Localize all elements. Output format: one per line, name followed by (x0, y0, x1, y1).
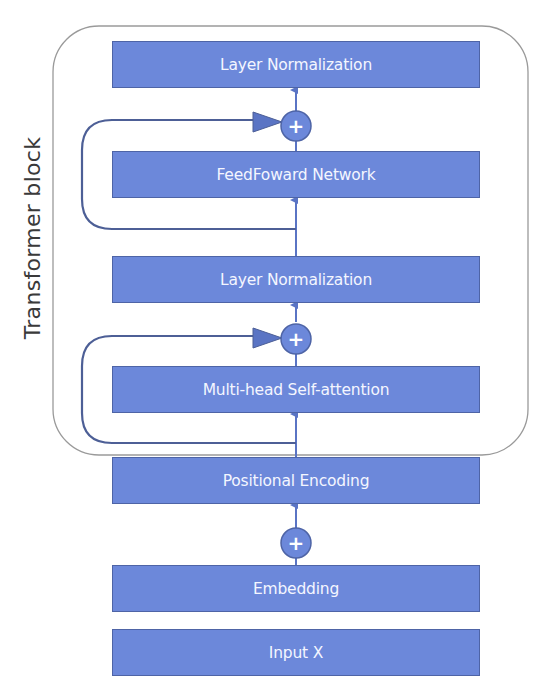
layer-normalization-mid-block: Layer Normalization (112, 256, 480, 303)
block-label: Input X (269, 644, 323, 662)
add-node-feedforward: + (281, 111, 311, 141)
block-label: Multi-head Self-attention (203, 381, 390, 399)
multi-head-self-attention-block: Multi-head Self-attention (112, 366, 480, 413)
layer-normalization-top-block: Layer Normalization (112, 41, 480, 88)
block-label: Layer Normalization (220, 56, 372, 74)
add-node-attention: + (281, 324, 311, 354)
block-label: Positional Encoding (223, 472, 370, 490)
feedforward-network-block: FeedFoward Network (112, 151, 480, 198)
positional-encoding-block: Positional Encoding (112, 457, 480, 504)
transformer-block-label: Transformer block (20, 137, 45, 339)
add-symbol: + (288, 531, 305, 555)
residual-arrowhead-feedforward (253, 112, 282, 132)
residual-arrowhead-attention (253, 328, 282, 348)
add-symbol: + (288, 327, 305, 351)
input-x-block: Input X (112, 629, 480, 676)
embedding-block: Embedding (112, 565, 480, 612)
add-node-positional: + (281, 528, 311, 558)
add-symbol: + (288, 114, 305, 138)
block-label: FeedFoward Network (217, 166, 376, 184)
block-label: Layer Normalization (220, 271, 372, 289)
block-label: Embedding (253, 580, 339, 598)
